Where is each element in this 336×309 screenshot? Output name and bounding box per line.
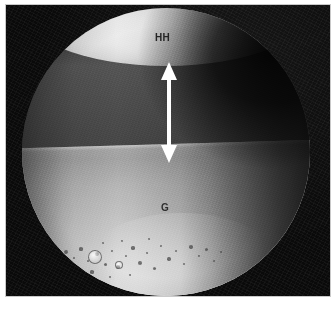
micrograph-image: HH G [6, 5, 330, 296]
aperture-vignette [22, 8, 310, 296]
microscope-field-of-view [22, 8, 310, 296]
label-hh: HH [155, 32, 170, 43]
label-g: G [161, 202, 169, 213]
figure-root: HH G [0, 0, 336, 309]
